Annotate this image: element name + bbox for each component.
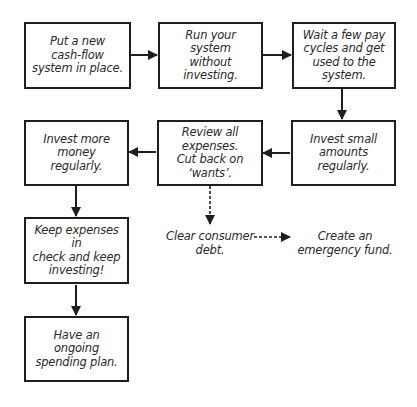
node-label-line: money regularly. — [30, 146, 123, 173]
node-put-new-cash-flow-system: Put a new cash-flow system in place. — [24, 22, 131, 89]
node-clear-consumer-debt: Clear consumer debt. — [158, 230, 262, 257]
node-invest-small-amounts: Invest small amounts regularly. — [291, 120, 396, 186]
node-label-line: Have an ongoing — [30, 329, 123, 356]
node-create-emergency-fund: Create an emergency fund. — [290, 230, 400, 257]
node-label-line: Wait a few pay — [303, 29, 385, 43]
node-invest-more-money: Invest more money regularly. — [24, 120, 129, 186]
node-run-system-without-investing: Run your system without investing. — [158, 22, 263, 89]
node-review-all-expenses: Review all expenses. Cut back on ‘wants’… — [157, 120, 263, 186]
node-label-line: Create an — [290, 230, 400, 244]
node-label-line: Cut back on — [177, 153, 244, 167]
node-label-line: without — [183, 56, 237, 70]
node-label-line: emergency fund. — [290, 244, 400, 258]
node-keep-expenses-in-check: Keep expenses in check and keep investin… — [24, 217, 129, 284]
node-label-line: Invest more — [30, 133, 123, 147]
node-label-line: system — [183, 42, 237, 56]
node-ongoing-spending-plan: Have an ongoing spending plan. — [24, 316, 129, 382]
node-label-line: Run your — [183, 29, 237, 43]
node-label-line: regularly. — [310, 160, 377, 174]
node-label-line: check and keep — [30, 251, 123, 265]
node-label-line: Invest small — [310, 133, 377, 147]
node-label-line: cash-flow — [32, 49, 123, 63]
node-label-line: used to the — [303, 56, 385, 70]
flowchart: Put a new cash-flow system in place. Run… — [0, 0, 417, 407]
node-label-line: expenses. — [177, 140, 244, 154]
node-label-line: Review all — [177, 126, 244, 140]
node-label-line: investing! — [30, 264, 123, 278]
node-label-line: system in place. — [32, 62, 123, 76]
node-label-line: Put a new — [32, 35, 123, 49]
node-label-line: Clear consumer — [158, 230, 262, 244]
node-wait-few-pay-cycles: Wait a few pay cycles and get used to th… — [292, 22, 396, 89]
node-label-line: investing. — [183, 69, 237, 83]
node-label-line: cycles and get — [303, 42, 385, 56]
node-label-line: Keep expenses in — [30, 224, 123, 251]
node-label-line: system. — [303, 69, 385, 83]
node-label-line: amounts — [310, 146, 377, 160]
node-label-line: spending plan. — [30, 356, 123, 370]
node-label-line: ‘wants’. — [177, 167, 244, 181]
node-label-line: debt. — [158, 244, 262, 258]
